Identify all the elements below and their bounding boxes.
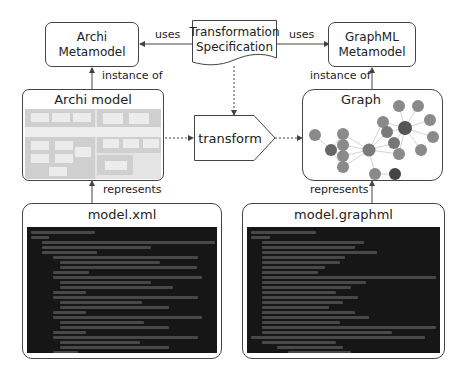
model-graphml-code-preview (247, 227, 440, 353)
transform-node: transform (194, 115, 276, 161)
model-graphml-node: model.graphml (242, 203, 445, 359)
transformation-spec-label-1: Transformation (189, 25, 279, 40)
represents-label-right: represents (310, 183, 369, 196)
archi-metamodel-label-1: Archi (77, 30, 107, 45)
transform-label: transform (194, 115, 266, 161)
transformation-spec-label-2: Specification (196, 40, 273, 55)
represents-label-left: represents (103, 183, 162, 196)
archi-model-node: Archi model (22, 89, 164, 181)
graphml-metamodel-label-1: GraphML (345, 30, 399, 45)
archi-metamodel-label-2: Metamodel (58, 45, 125, 60)
archi-model-title: Archi model (23, 92, 163, 107)
graphml-metamodel-node: GraphML Metamodel (328, 22, 416, 67)
model-xml-code-preview (27, 227, 217, 353)
uses-label-right: uses (289, 28, 314, 41)
graphml-metamodel-label-2: Metamodel (338, 45, 405, 60)
uses-label-left: uses (155, 28, 180, 41)
model-xml-title: model.xml (23, 207, 221, 222)
instance-of-label-left: instance of (102, 69, 163, 82)
instance-of-label-right: instance of (310, 69, 371, 82)
transformation-specification-node: Transformation Specification (192, 20, 277, 67)
archi-diagram-thumbnail (25, 109, 161, 179)
archi-metamodel-node: Archi Metamodel (45, 22, 139, 67)
graph-visualization (303, 90, 444, 182)
model-xml-node: model.xml (22, 203, 222, 359)
graph-node: Graph (302, 89, 443, 181)
model-graphml-title: model.graphml (243, 207, 444, 222)
